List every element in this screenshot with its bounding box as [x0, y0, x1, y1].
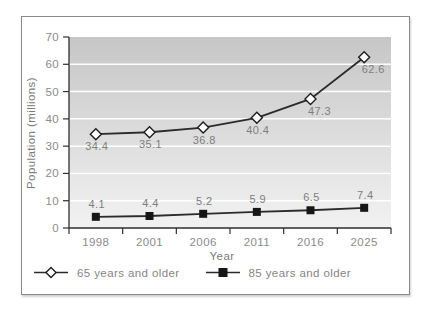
- data-point-label: 62.6: [362, 63, 385, 75]
- data-point-label: 5.2: [196, 195, 213, 207]
- data-point-label: 4.4: [142, 197, 159, 209]
- chart-frame: 34.435.136.840.447.362.64.14.45.25.96.57…: [21, 16, 410, 295]
- square-marker: [307, 206, 315, 214]
- y-tick-label: 0: [52, 222, 59, 234]
- data-point-label: 36.8: [193, 134, 216, 146]
- y-axis-title: Population (millions): [25, 77, 37, 189]
- y-tick-label: 40: [45, 113, 59, 125]
- square-marker: [146, 212, 154, 220]
- x-tick-label: 2016: [297, 236, 324, 248]
- square-marker-icon: [206, 266, 240, 279]
- square-marker: [92, 213, 100, 221]
- data-point-label: 34.4: [85, 140, 108, 152]
- y-tick-label: 20: [45, 167, 59, 179]
- data-point-label: 6.5: [303, 191, 320, 203]
- diamond-marker-icon: [34, 266, 68, 279]
- x-tick-label: 2006: [190, 236, 217, 248]
- y-tick-label: 10: [45, 195, 59, 207]
- data-point-label: 35.1: [139, 138, 162, 150]
- population-line-chart: 34.435.136.840.447.362.64.14.45.25.96.57…: [22, 17, 411, 263]
- x-tick-label: 1998: [82, 236, 109, 248]
- data-point-label: 4.1: [89, 198, 106, 210]
- data-point-label: 7.4: [357, 189, 374, 201]
- x-tick-label: 2001: [136, 236, 163, 248]
- y-tick-label: 60: [45, 58, 59, 70]
- chart-legend: 65 years and older 85 years and older: [22, 266, 411, 279]
- legend-item-65-and-older: 65 years and older: [34, 266, 179, 279]
- legend-label-65-and-older: 65 years and older: [77, 267, 179, 279]
- data-point-label: 5.9: [250, 193, 266, 205]
- figure-canvas: 34.435.136.840.447.362.64.14.45.25.96.57…: [0, 0, 427, 312]
- data-point-label: 40.4: [246, 124, 269, 136]
- data-point-label: 47.3: [308, 105, 331, 117]
- x-tick-label: 2011: [244, 236, 270, 248]
- x-tick-label: 2025: [351, 236, 378, 248]
- y-tick-label: 50: [45, 86, 59, 98]
- legend-label-85-and-older: 85 years and older: [249, 267, 351, 279]
- y-tick-label: 30: [45, 140, 59, 152]
- y-tick-label: 70: [45, 31, 59, 43]
- square-marker: [360, 204, 368, 212]
- square-marker: [253, 208, 261, 216]
- x-axis-title: Year: [210, 250, 235, 262]
- legend-item-85-and-older: 85 years and older: [206, 266, 351, 279]
- square-marker: [199, 210, 207, 218]
